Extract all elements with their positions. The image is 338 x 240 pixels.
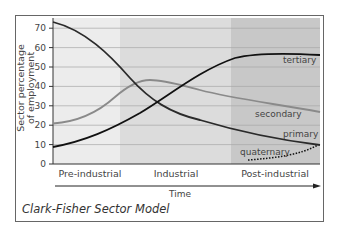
time-arrow-head-icon	[313, 184, 321, 189]
tick-70: 70	[35, 23, 47, 33]
label-tertiary: tertiary	[283, 55, 317, 65]
svg-text:of employment: of employment	[25, 52, 36, 124]
label-primary: primary	[283, 129, 319, 139]
band-industrial	[120, 18, 231, 164]
tick-20: 20	[35, 120, 47, 130]
label-secondary: secondary	[255, 109, 302, 119]
band-pre-industrial	[53, 18, 120, 164]
chart-caption: Clark-Fisher Sector Model	[22, 202, 170, 216]
label-quaternary: quaternary	[240, 147, 290, 157]
tick-50: 50	[35, 62, 47, 72]
y-tick-labels: 0 10 20 30 40 50 60 70	[35, 23, 47, 169]
x-axis-label: Time	[168, 189, 191, 199]
stage-labels: Pre-industrial Industrial Post-industria…	[59, 168, 309, 179]
stage-industrial: Industrial	[154, 168, 199, 179]
tick-0: 0	[40, 159, 46, 169]
stage-pre-industrial: Pre-industrial	[59, 168, 122, 179]
band-post-industrial	[231, 18, 320, 164]
tick-60: 60	[35, 43, 47, 53]
tick-40: 40	[35, 81, 47, 91]
y-axis-label: Sector percentage of employment	[15, 44, 36, 132]
tick-30: 30	[35, 101, 47, 111]
tick-10: 10	[35, 140, 47, 150]
stage-post-industrial: Post-industrial	[241, 168, 309, 179]
